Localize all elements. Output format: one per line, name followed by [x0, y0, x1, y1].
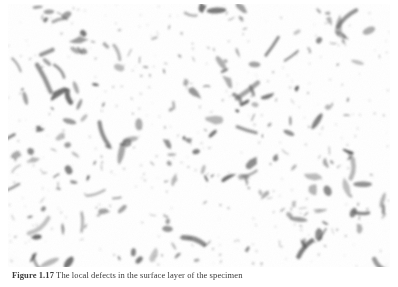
- figure-page: Figure 1.17 The local defects in the sur…: [0, 0, 398, 287]
- micrograph-image: [8, 4, 390, 267]
- micrograph-plate: [8, 4, 390, 267]
- figure-caption-label: Figure 1.17: [12, 270, 54, 280]
- figure-caption: Figure 1.17 The local defects in the sur…: [12, 270, 392, 280]
- figure-caption-text: The local defects in the surface layer o…: [56, 270, 242, 280]
